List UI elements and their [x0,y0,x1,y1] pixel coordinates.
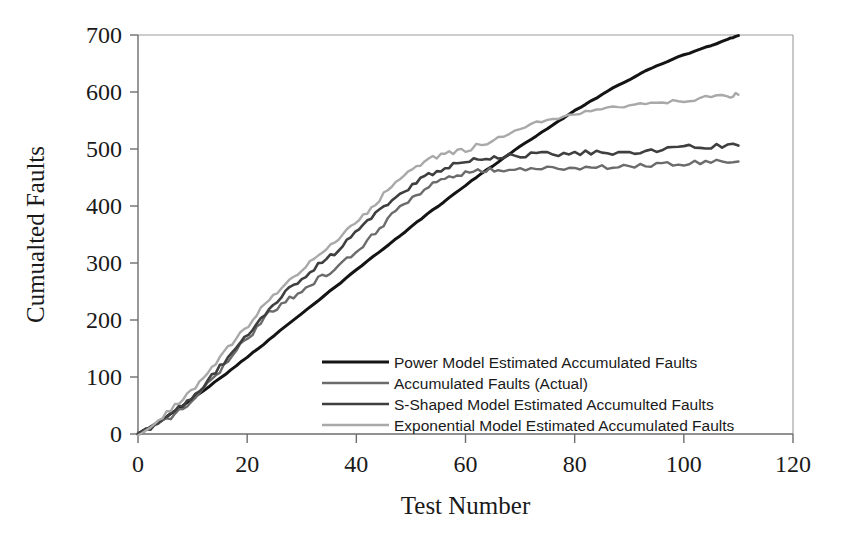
y-tick-label: 300 [86,250,122,276]
y-tick-label: 200 [86,307,122,333]
x-axis-title: Test Number [401,492,531,519]
y-axis-title: Cumualted Faults [22,146,49,323]
x-tick-label: 20 [235,451,259,477]
chart-figure: 0100200300400500600700 020406080100120 P… [0,0,843,541]
x-axis-ticks: 020406080100120 [132,434,811,477]
x-tick-label: 60 [454,451,478,477]
legend-label-2: S-Shaped Model Estimated Accumulted Faul… [394,396,714,413]
legend-label-3: Exponential Model Estimated Accumulated … [394,417,735,434]
x-tick-label: 0 [132,451,144,477]
line-chart-canvas: 0100200300400500600700 020406080100120 P… [0,0,843,541]
legend-label-0: Power Model Estimated Accumulated Faults [394,354,697,371]
y-tick-label: 400 [86,193,122,219]
y-tick-label: 100 [86,364,122,390]
x-tick-label: 40 [344,451,368,477]
y-tick-label: 500 [86,136,122,162]
x-tick-label: 100 [666,451,702,477]
y-tick-label: 700 [86,22,122,48]
y-tick-label: 600 [86,79,122,105]
x-tick-label: 80 [563,451,587,477]
y-axis-ticks: 0100200300400500600700 [86,22,138,447]
legend-label-1: Accumulated Faults (Actual) [394,375,588,392]
series-line-1 [138,160,738,434]
y-tick-label: 0 [110,421,122,447]
chart-legend: Power Model Estimated Accumulated Faults… [322,354,735,434]
x-tick-label: 120 [775,451,811,477]
